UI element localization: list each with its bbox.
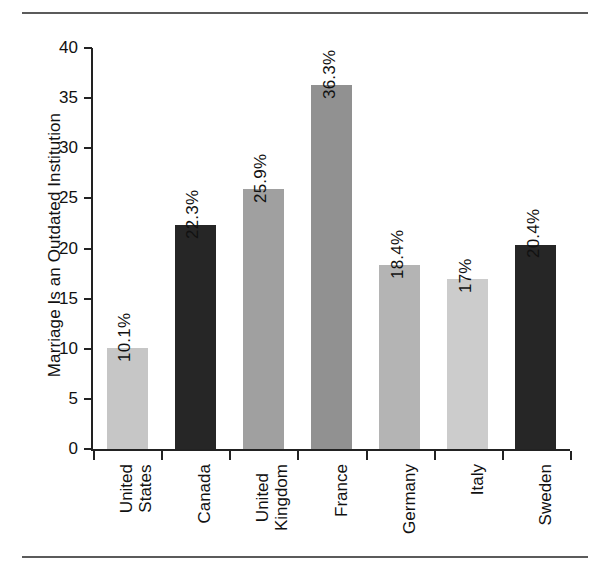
x-category-label: UnitedKingdom: [253, 464, 291, 531]
x-tick-mark: [93, 451, 95, 460]
y-tick-label: 10: [32, 340, 78, 357]
x-category-label: Canada: [195, 464, 214, 524]
bar: [379, 265, 420, 449]
x-category-label: UnitedStates: [117, 464, 155, 513]
x-category-label-line: Kingdom: [272, 464, 291, 531]
plot-area: [93, 48, 570, 449]
bar-value-label: 22.3%: [183, 190, 203, 239]
x-tick-mark: [366, 451, 368, 460]
bar-value-label: 36.3%: [320, 50, 340, 99]
x-tick-mark: [161, 451, 163, 460]
bar-value-label: 20.4%: [524, 209, 544, 258]
x-tick-mark: [229, 451, 231, 460]
bar: [311, 85, 352, 449]
y-tick-label: 25: [32, 189, 78, 206]
x-tick-mark: [434, 451, 436, 460]
bar-value-label: 10.1%: [115, 313, 135, 362]
x-category-label-line: States: [136, 464, 155, 513]
bar: [515, 245, 556, 450]
x-tick-mark: [297, 451, 299, 460]
x-category-label-line: Germany: [400, 464, 419, 534]
y-tick-label: 40: [32, 39, 78, 56]
x-category-label: France: [332, 464, 351, 517]
x-category-label-line: Sweden: [536, 464, 555, 525]
x-category-label: Germany: [400, 464, 419, 534]
bar: [243, 189, 284, 449]
x-category-label: Sweden: [536, 464, 555, 525]
y-tick-label: 30: [32, 139, 78, 156]
bar-value-label: 17%: [456, 258, 476, 293]
x-category-label-line: Italy: [468, 464, 487, 495]
x-category-label-line: France: [332, 464, 351, 517]
y-tick-label: 0: [32, 440, 78, 457]
x-tick-mark: [570, 451, 572, 460]
y-tick-label: 35: [32, 89, 78, 106]
y-tick-label: 5: [32, 390, 78, 407]
bar: [447, 279, 488, 449]
x-category-label-line: Canada: [195, 464, 214, 524]
bar: [175, 225, 216, 449]
x-category-label: Italy: [468, 464, 487, 495]
bar-value-label: 25.9%: [251, 154, 271, 203]
bar-chart-figure: Marriage Is an Outdated Institution 0510…: [0, 20, 606, 550]
x-category-label-line: United: [253, 464, 272, 531]
page-rule-top: [22, 12, 588, 14]
x-tick-mark: [502, 451, 504, 460]
bar-value-label: 18.4%: [388, 229, 408, 278]
y-tick-label: 20: [32, 240, 78, 257]
x-category-label-line: United: [117, 464, 136, 513]
page-rule-bottom: [22, 556, 588, 558]
bar: [107, 348, 148, 449]
y-tick-label: 15: [32, 290, 78, 307]
